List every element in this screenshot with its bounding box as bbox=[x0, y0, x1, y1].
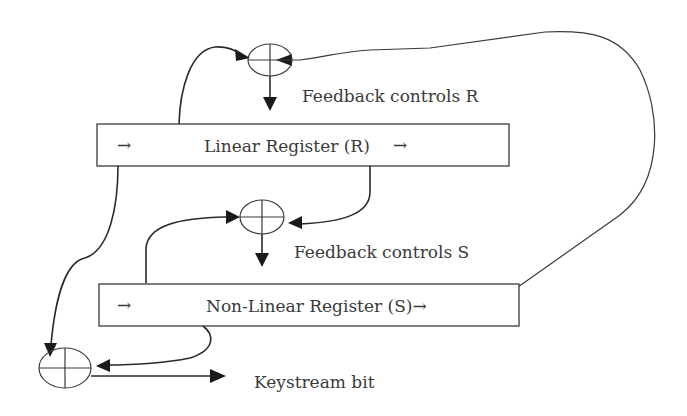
xor-s-node bbox=[240, 200, 284, 234]
linear-register: → Linear Register (R) → bbox=[97, 124, 509, 166]
connector-s-to-xor-s bbox=[146, 217, 232, 283]
nonlinear-register-label: Non-Linear Register (S)→ bbox=[206, 296, 427, 316]
xor-out-node bbox=[39, 348, 91, 388]
arrowhead bbox=[210, 369, 226, 383]
diagram-canvas: Feedback controls R → Linear Register (R… bbox=[0, 0, 687, 416]
arrowhead bbox=[263, 97, 277, 111]
arrowhead bbox=[226, 210, 240, 224]
arrowhead bbox=[96, 359, 110, 372]
connector-r-to-xor-r bbox=[179, 47, 242, 124]
keystream-label: Keystream bit bbox=[254, 372, 375, 392]
nonlinear-register: → Non-Linear Register (S)→ bbox=[99, 284, 519, 326]
arrowhead bbox=[288, 216, 302, 229]
linear-register-label: Linear Register (R) bbox=[204, 136, 370, 156]
connector-s-to-xor-out bbox=[105, 326, 211, 365]
linear-register-right-arrow: → bbox=[393, 135, 407, 155]
xor-r-node bbox=[248, 44, 292, 76]
feedback-s-label: Feedback controls S bbox=[294, 242, 469, 262]
arrowhead bbox=[255, 253, 269, 267]
linear-register-left-arrow: → bbox=[117, 135, 131, 155]
nonlinear-register-left-arrow: → bbox=[117, 295, 131, 315]
feedback-r-label: Feedback controls R bbox=[302, 86, 480, 106]
connector-r-to-xor-s bbox=[300, 166, 370, 224]
